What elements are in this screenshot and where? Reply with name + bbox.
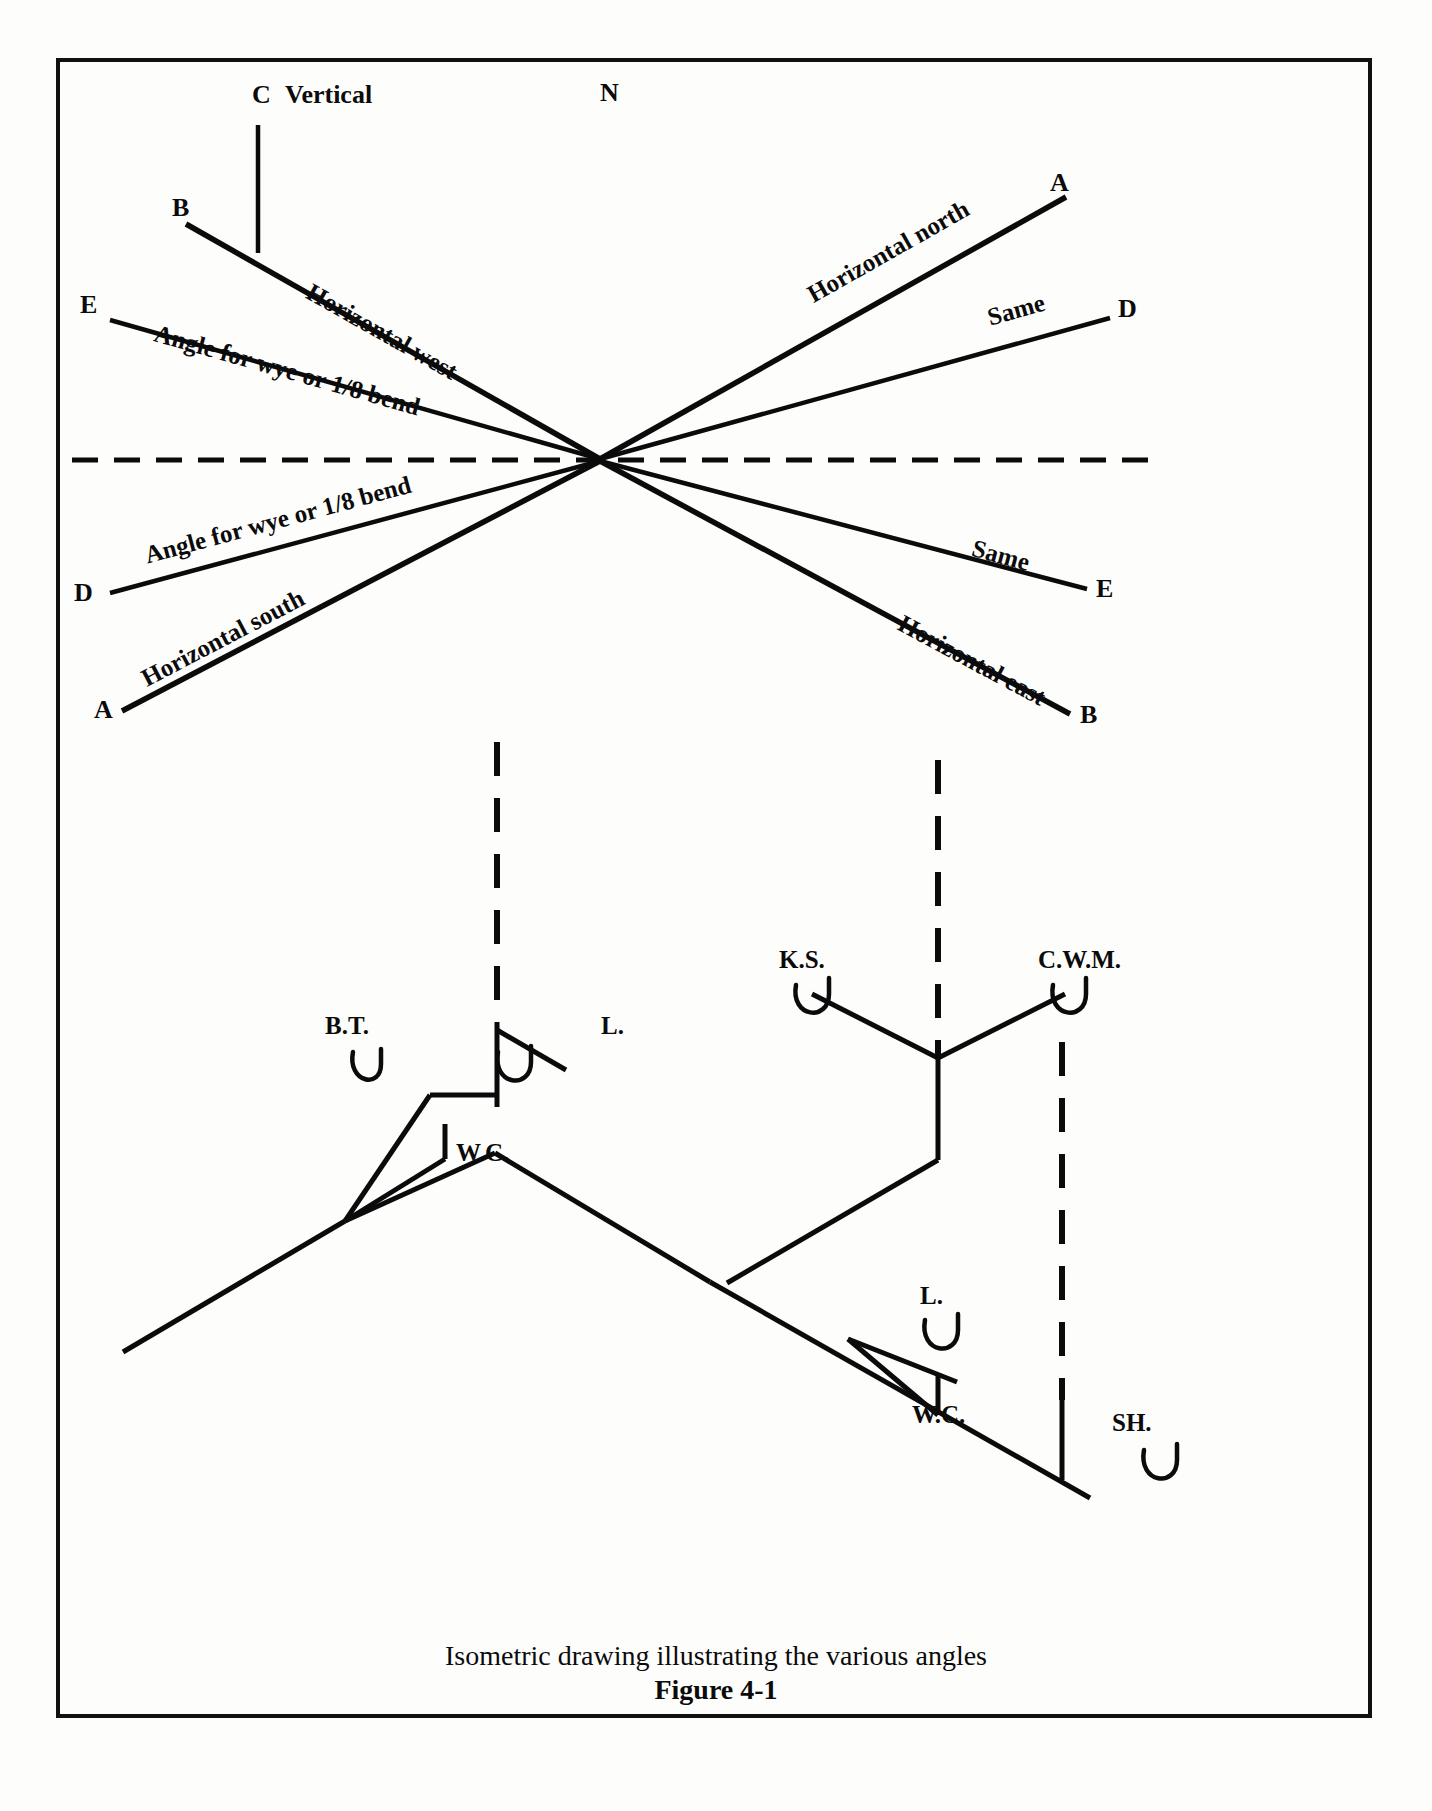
ray-angle-wye-lower-d	[110, 461, 600, 593]
figure-caption-line2: Figure 4-1	[0, 1676, 1432, 1704]
label-point-a-bottom-left: A	[94, 697, 113, 723]
fixture-label-sh: SH.	[1112, 1410, 1152, 1435]
label-point-e-lower-right: E	[1096, 576, 1113, 602]
ray-same-upper-d	[600, 318, 1110, 459]
fixture-label-wc-right: W.C.	[912, 1402, 965, 1427]
fixture-label-l-left: L.	[601, 1013, 624, 1038]
label-point-a-upper-right: A	[1050, 170, 1069, 196]
fixture-label-l-right: L.	[920, 1283, 943, 1308]
l-right-trap-icon	[924, 1314, 958, 1349]
fixture-label-bt: B.T.	[325, 1013, 369, 1038]
label-vertical: Vertical	[285, 82, 372, 108]
fixture-label-ks: K.S.	[779, 947, 825, 972]
fixture-label-cwm: C.W.M.	[1038, 947, 1121, 972]
figure-caption-line1: Isometric drawing illustrating the vario…	[0, 1642, 1432, 1670]
fixture-trap-hooks	[352, 978, 1177, 1479]
figure-page: C Vertical N B E Horizontal west Angle f…	[0, 0, 1432, 1811]
label-point-b-upper-left: B	[172, 195, 189, 221]
label-point-b-bottom-right: B	[1080, 702, 1097, 728]
central-main-run	[495, 1153, 710, 1282]
label-point-e-left: E	[80, 292, 97, 318]
label-point-d-right: D	[1118, 296, 1137, 322]
l-left-trap-icon	[497, 1046, 531, 1081]
label-compass-north: N	[600, 80, 619, 106]
sh-trap-icon	[1143, 1444, 1177, 1479]
bt-trap-icon	[352, 1049, 381, 1080]
label-point-c-top: C	[252, 82, 271, 108]
kitchen-sink-branch	[812, 994, 938, 1058]
left-main-drain	[123, 1221, 345, 1352]
lower-main-run	[710, 1282, 1090, 1498]
fixture-label-wc-left: W.C.	[456, 1140, 509, 1165]
lavatory-right-branch	[848, 1339, 957, 1382]
clothes-washer-branch	[938, 994, 1065, 1058]
isometric-piping-group	[123, 742, 1090, 1498]
label-point-d-lower-left: D	[74, 580, 93, 606]
figure-artwork	[0, 0, 1432, 1811]
right-stack-elbow	[727, 1160, 938, 1283]
